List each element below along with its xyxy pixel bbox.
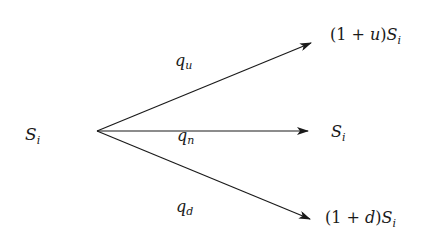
trinomial-diagram: Si qu qn qd (1 + u)Si Si (1 + d)Si (0, 0, 436, 239)
prob-down-label: qd (176, 197, 193, 218)
up-branch-arrow (97, 43, 311, 131)
down-branch-arrow (97, 131, 310, 219)
result-down-label: (1 + d)Si (325, 208, 396, 230)
start-node-label: Si (25, 124, 40, 147)
result-neutral-label: Si (331, 122, 346, 144)
prob-neutral-label: qn (177, 126, 194, 147)
result-up-label: (1 + u)Si (330, 25, 401, 47)
prob-up-label: qu (175, 51, 192, 72)
